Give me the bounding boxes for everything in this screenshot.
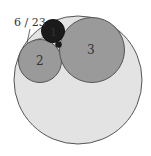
tangent-circles-diagram: 1 2 3 6 / 23 bbox=[0, 0, 151, 156]
circle-3-label: 3 bbox=[87, 43, 95, 57]
small-circle bbox=[56, 42, 62, 48]
circle-2-label: 2 bbox=[36, 54, 44, 68]
annotation-label: 6 / 23 bbox=[14, 16, 46, 29]
circle-1-label: 1 bbox=[50, 26, 57, 39]
